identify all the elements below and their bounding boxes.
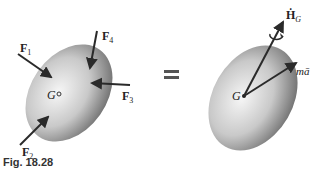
label-f3: F3 (122, 90, 133, 105)
label-g-right: G (232, 90, 241, 102)
label-f1: F1 (20, 42, 31, 57)
label-ma-bar: mā (296, 66, 309, 77)
label-f4: F4 (102, 30, 113, 45)
label-g-left: G (47, 89, 56, 101)
right-rigid-body (190, 30, 315, 167)
figure-caption: Fig. 18.28 (3, 156, 53, 168)
label-hg-dot: ḢG (286, 9, 301, 24)
equals-sign (164, 70, 179, 79)
diagram-canvas (0, 0, 320, 172)
